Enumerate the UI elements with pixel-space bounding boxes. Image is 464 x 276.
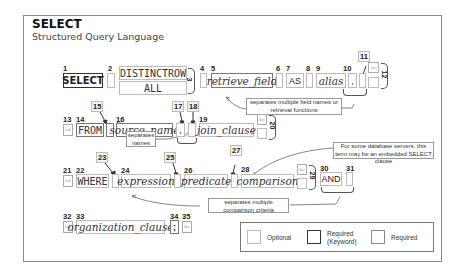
expression-term: expression [121,174,171,188]
legend-required-label: Required [391,234,417,242]
distinctrow-option: DISTINCTROW [119,66,187,80]
optional-slot-31 [346,172,353,186]
legend-optional-label: Optional [267,234,291,242]
marker-5: 5 [211,64,215,73]
marker-13: 13 [63,115,71,124]
marker-15: 15 [91,101,103,112]
marker-12: 12 [381,71,388,79]
all-option: ALL [119,81,187,95]
comparison-term: comparison [241,174,294,188]
end-continue-icon: ⇦ [368,62,379,73]
marker-7: 7 [286,64,290,73]
legend-required-keyword-swatch [307,230,321,244]
note-embedded-select: For some database servers, this term may… [333,142,434,159]
legend-required-swatch [371,230,385,244]
under-brace-10-11 [343,89,367,96]
marker-32: 32 [63,212,71,221]
end-icon-35: ⇦ [182,221,192,233]
comma-separator: , [348,73,357,88]
predicate-term: predicate [184,174,228,188]
optional-slot-29 [297,178,307,189]
marker-17: 17 [172,101,184,112]
comma-separator-17: , [176,123,185,137]
note-separates-names: separates names [126,131,156,147]
marker-11: 11 [358,51,370,62]
semicolon-terminator: ; [170,220,179,234]
marker-21: 21 [63,166,71,175]
legend-required-keyword-label-1: Required [327,230,353,238]
under-brace-17-18 [177,138,197,144]
optional-slot-20 [257,128,267,139]
marker-29: 29 [309,172,316,180]
marker-27: 27 [230,145,242,156]
legend-required-keyword-label-2: (Keyword) [327,238,357,246]
marker-18: 18 [187,101,199,112]
from-keyword: FROM [76,123,104,137]
optional-slot-8 [306,73,313,88]
end-continue-icon-20: ⇦ [257,114,267,125]
marker-9: 9 [316,64,320,73]
continue-in-icon-21: ⇨ [63,175,73,187]
legend-optional-swatch [247,230,261,244]
marker-10: 10 [343,64,351,73]
join-clause-term: join_clause [199,123,254,137]
marker-3: 3 [186,78,193,82]
marker-23: 23 [96,152,108,163]
marker-6: 6 [276,64,280,73]
where-keyword: WHERE [76,174,109,188]
under-brace-30-31 [321,187,354,193]
optional-slot-18 [188,123,196,137]
retrieve-field-term: retrieve_field [211,73,273,88]
optional-slot-2 [107,73,115,88]
marker-20: 20 [269,122,276,130]
marker-1: 1 [63,64,67,73]
organization-clause-term: organization_clause [76,220,165,234]
optional-slot-6 [276,73,283,88]
note-separates-fields: separates multiple field names or retrie… [246,98,342,115]
optional-slot-11 [359,73,366,88]
marker-35: 35 [182,212,190,221]
marker-25: 25 [164,152,176,163]
end-continue-icon-29: ⇦ [297,164,307,175]
marker-8: 8 [306,64,310,73]
as-keyword: AS [286,73,304,88]
marker-2: 2 [108,64,112,73]
optional-slot-12 [368,77,379,88]
note-separates-criteria: separates multiple comparison criteria [208,198,289,213]
legend: Optional Required (Keyword) Required [240,222,434,252]
select-keyword: SELECT [63,73,103,88]
marker-4: 4 [200,64,204,73]
continue-in-icon: ⇨ [63,124,73,136]
and-keyword: AND [320,172,342,186]
marker-28: 28 [241,165,249,174]
alias-term: alias [316,73,346,88]
